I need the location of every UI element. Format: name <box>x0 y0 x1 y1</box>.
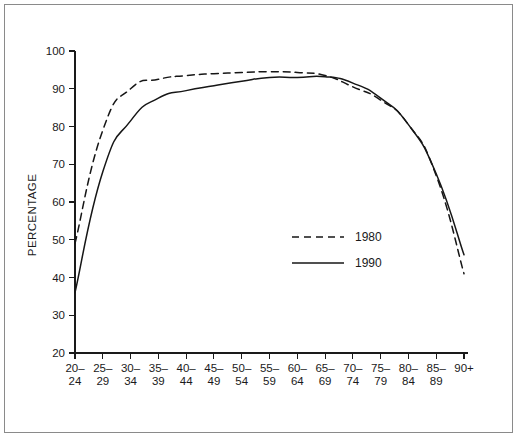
x-tick-label-second-line: 59 <box>263 375 276 387</box>
x-tick-label: 30– <box>121 362 141 374</box>
figure-frame: 2030405060708090100 20–2425–2930–3435–39… <box>4 4 513 433</box>
y-tick-label: 20 <box>52 347 65 359</box>
y-axis-title-group: PERCENTAGE <box>26 174 38 256</box>
x-tick-label-second-line: 64 <box>291 375 304 387</box>
y-tick-label: 90 <box>52 83 65 95</box>
x-tick-label-second-line: 24 <box>69 375 82 387</box>
y-tick-label: 50 <box>52 234 65 246</box>
x-tick-label-second-line: 79 <box>374 375 387 387</box>
y-tick-labels: 2030405060708090100 <box>46 45 65 359</box>
x-tick-marks <box>75 353 464 359</box>
x-tick-label: 45– <box>204 362 224 374</box>
x-tick-label: 55– <box>260 362 280 374</box>
x-tick-label: 20– <box>65 362 85 374</box>
x-tick-label: 65– <box>315 362 335 374</box>
x-tick-label-second-line: 69 <box>319 375 332 387</box>
x-tick-label: 85– <box>427 362 447 374</box>
x-tick-label: 70– <box>343 362 363 374</box>
x-tick-label: 40– <box>177 362 197 374</box>
x-tick-label: 25– <box>93 362 113 374</box>
y-axis-title: PERCENTAGE <box>26 174 38 256</box>
y-tick-label: 30 <box>52 309 65 321</box>
x-tick-label: 50– <box>232 362 252 374</box>
y-tick-label: 80 <box>52 121 65 133</box>
x-tick-label-second-line: 84 <box>402 375 415 387</box>
y-tick-marks <box>69 51 75 353</box>
chart-legend: 19801990 <box>292 230 382 270</box>
x-tick-label-second-line: 89 <box>430 375 443 387</box>
x-tick-label: 35– <box>149 362 169 374</box>
y-tick-label: 60 <box>52 196 65 208</box>
series-line-1980 <box>75 72 464 274</box>
x-tick-label-second-line: 49 <box>208 375 221 387</box>
y-tick-label: 100 <box>46 45 65 57</box>
x-tick-label: 80– <box>399 362 419 374</box>
series-line-1990 <box>75 76 464 292</box>
line-chart: 2030405060708090100 20–2425–2930–3435–39… <box>5 5 514 434</box>
x-tick-label-second-line: 54 <box>235 375 248 387</box>
x-tick-label-second-line: 29 <box>96 375 109 387</box>
x-tick-label-second-line: 39 <box>152 375 165 387</box>
y-tick-label: 70 <box>52 158 65 170</box>
x-tick-label: 60– <box>288 362 308 374</box>
data-series-group <box>75 72 464 293</box>
axis-lines <box>75 51 468 353</box>
legend-label-1980: 1980 <box>355 230 382 244</box>
y-tick-label: 40 <box>52 272 65 284</box>
x-tick-label: 75– <box>371 362 391 374</box>
x-tick-label-second-line: 34 <box>124 375 137 387</box>
x-tick-labels: 20–2425–2930–3435–3940–4445–4950–5455–59… <box>65 362 474 387</box>
axes-group <box>75 51 468 353</box>
x-tick-label-second-line: 74 <box>346 375 359 387</box>
x-tick-label-second-line: 44 <box>180 375 193 387</box>
chart-svg: 2030405060708090100 20–2425–2930–3435–39… <box>5 5 514 434</box>
x-tick-label: 90+ <box>454 362 474 374</box>
legend-label-1990: 1990 <box>355 256 382 270</box>
